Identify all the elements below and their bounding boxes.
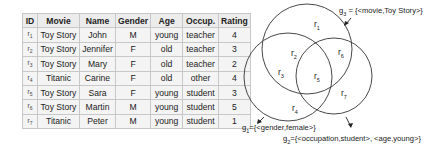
group-label-g1: g1={<gender,female>} bbox=[242, 123, 316, 134]
region-r3-sub: 3 bbox=[281, 73, 284, 79]
region-r7-sub: 7 bbox=[344, 94, 347, 100]
region-r5-sub: 5 bbox=[317, 77, 320, 83]
region-label-r6: r6 bbox=[338, 47, 344, 59]
region-label-r7: r7 bbox=[341, 88, 347, 100]
region-r2-sub: 2 bbox=[294, 54, 297, 60]
region-label-r4: r4 bbox=[292, 103, 298, 115]
region-r1-sub: 1 bbox=[317, 25, 320, 31]
circle-g2 bbox=[296, 38, 372, 114]
region-label-r1: r1 bbox=[314, 19, 320, 31]
region-r6-sub: 6 bbox=[341, 53, 344, 59]
g2-description: ={<occupation,student>, <age,young>} bbox=[290, 134, 421, 143]
arrow-g2 bbox=[346, 117, 353, 128]
g3-description: = {<movie,Toy Story>} bbox=[346, 6, 423, 15]
group-label-g3: g3 = {<movie,Toy Story>} bbox=[339, 6, 423, 17]
venn-diagram bbox=[0, 0, 444, 152]
region-r4-sub: 4 bbox=[295, 109, 298, 115]
region-label-r5: r5 bbox=[314, 71, 320, 83]
region-label-r3: r3 bbox=[278, 67, 284, 79]
group-label-g2: g2={<occupation,student>, <age,young>} bbox=[283, 134, 421, 145]
g1-description: ={<gender,female>} bbox=[249, 123, 316, 132]
region-label-r2: r2 bbox=[291, 48, 297, 60]
arrow-g3 bbox=[344, 18, 351, 26]
